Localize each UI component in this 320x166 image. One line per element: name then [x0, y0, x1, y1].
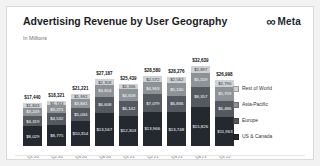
chart-title: Advertising Revenue by User Geography: [23, 15, 303, 27]
legend-swatch: [233, 118, 239, 124]
bar-Q221: $28,580$2,572$4,963$7,079$13,966Q2'21: [143, 76, 162, 146]
segment-europe: $6,142: [119, 101, 138, 116]
bar-stack: $1,743$3,271$4,532$8,775: [47, 101, 66, 146]
bar-stack: $2,790$5,759$6,486$11,963: [215, 80, 234, 146]
bar-stack: $2,336$4,658$6,142$12,303: [119, 84, 138, 146]
bar-stack: $2,358$4,654$6,608$13,567: [95, 79, 114, 146]
segment-asia-pacific: $3,271: [47, 105, 66, 113]
segment-us-canada: $13,748: [167, 112, 186, 146]
bars: $17,440$1,843$3,249$4,319$8,029Q1'20$18,…: [23, 66, 234, 146]
legend-label: US & Canada: [242, 134, 272, 139]
legend-swatch: [233, 86, 239, 92]
bar-stack: $1,843$3,249$4,319$8,029: [23, 103, 42, 146]
segment-asia-pacific: $3,841: [71, 99, 90, 108]
bar-stack: $2,562$5,130$6,836$13,748: [167, 77, 186, 146]
segment-us-canada: $8,775: [47, 125, 66, 147]
meta-logo: ∞ Meta: [266, 16, 301, 27]
bar-Q220: $18,321$1,743$3,271$4,532$8,775Q2'20: [47, 101, 66, 146]
segment-europe: $6,836: [167, 96, 186, 113]
segment-us-canada: $12,303: [119, 116, 138, 146]
bar-Q122: $26,998$2,790$5,759$6,486$11,963Q1'22: [215, 80, 234, 146]
segment-us-canada: $13,567: [95, 113, 114, 146]
segment-asia-pacific: $4,963: [143, 82, 162, 94]
segment-europe: $5,034: [71, 108, 90, 120]
segment-us-canada: $8,029: [23, 126, 42, 146]
bar-Q320: $21,221$1,992$3,841$5,034$10,354Q3'20: [71, 94, 90, 146]
segment-europe: $4,532: [47, 113, 66, 124]
legend-label: Europe: [242, 118, 258, 123]
bar-total-label: $26,998: [203, 61, 246, 79]
bar-Q121: $25,439$2,336$4,658$6,142$12,303Q1'21: [119, 84, 138, 146]
segment-europe: $7,079: [143, 94, 162, 111]
x-axis-label: Q1'22: [203, 148, 246, 166]
segment-rest-of-world: $1,843: [23, 103, 42, 108]
segment-asia-pacific: $4,658: [119, 89, 138, 100]
segment-rest-of-world: $2,790: [215, 80, 234, 87]
legend-item-europe: Europe: [233, 116, 297, 125]
segment-rest-of-world: $1,743: [47, 101, 66, 105]
segment-asia-pacific: $5,130: [167, 83, 186, 96]
chart-header: Advertising Revenue by User Geography In…: [23, 15, 303, 47]
legend-item-rest-of-world: Rest of World: [233, 84, 297, 93]
segment-us-canada: $11,963: [215, 117, 234, 146]
segment-europe: $6,608: [95, 97, 114, 113]
segment-asia-pacific: $5,759: [215, 87, 234, 101]
chart-subtitle: In Millions: [23, 36, 47, 41]
segment-asia-pacific: $4,654: [95, 85, 114, 96]
segment-us-canada: $15,826: [191, 107, 210, 146]
segment-rest-of-world: $2,572: [143, 76, 162, 82]
legend: Rest of WorldAsia-PacificEuropeUS & Cana…: [233, 84, 297, 141]
segment-asia-pacific: $3,249: [23, 108, 42, 116]
bar-stack: $2,572$4,963$7,079$13,966: [143, 76, 162, 146]
segment-us-canada: $10,354: [71, 121, 90, 146]
chart-card: Advertising Revenue by User Geography In…: [6, 6, 314, 160]
segment-us-canada: $13,966: [143, 112, 162, 146]
legend-label: Rest of World: [242, 86, 272, 91]
legend-item-us-canada: US & Canada: [233, 132, 297, 141]
segment-rest-of-world: $2,336: [119, 84, 138, 90]
bar-Q420: $27,187$2,358$4,654$6,608$13,567Q4'20: [95, 79, 114, 146]
segment-europe: $8,357: [191, 87, 210, 108]
legend-swatch: [233, 102, 239, 108]
infinity-icon: ∞: [266, 17, 275, 27]
legend-label: Asia-Pacific: [242, 102, 268, 107]
brand-name: Meta: [277, 16, 301, 27]
segment-rest-of-world: $1,992: [71, 94, 90, 99]
bottom-rule: [15, 155, 305, 156]
segment-europe: $4,319: [23, 116, 42, 127]
segment-europe: $6,486: [215, 101, 234, 117]
legend-swatch: [233, 134, 239, 140]
legend-item-asia-pacific: Asia-Pacific: [233, 100, 297, 109]
bar-Q120: $17,440$1,843$3,249$4,319$8,029Q1'20: [23, 103, 42, 146]
bar-Q321: $28,276$2,562$5,130$6,836$13,748Q3'21: [167, 77, 186, 146]
bar-stack: $1,992$3,841$5,034$10,354: [71, 94, 90, 146]
